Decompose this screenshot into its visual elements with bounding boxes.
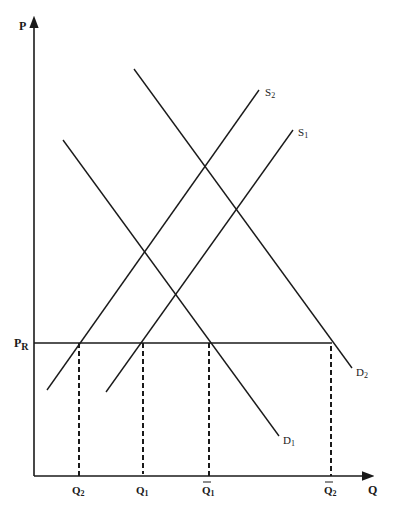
quantity-label-q1: Q1 — [136, 484, 149, 498]
demand-curve-d2-label: D2 — [356, 366, 368, 380]
quantity-label-q2-bar: Q2 — [324, 484, 337, 498]
supply-curve-s2-label: S2 — [265, 86, 275, 100]
supply-demand-diagram: P Q PR S2 S1 D1 D2 Q2 Q1 Q1 Q2 — [0, 0, 394, 505]
price-axis-label: P — [19, 19, 26, 33]
demand-curve-d1-label: D1 — [283, 434, 295, 448]
demand-curve-d1 — [63, 140, 279, 436]
quantity-label-q2: Q2 — [72, 484, 85, 498]
quantity-label-q1-bar: Q1 — [202, 484, 215, 498]
regulated-price-label: PR — [14, 336, 29, 352]
quantity-axis-label: Q — [368, 483, 377, 497]
supply-curve-s1-label: S1 — [298, 126, 308, 140]
supply-curve-s1 — [106, 130, 293, 392]
